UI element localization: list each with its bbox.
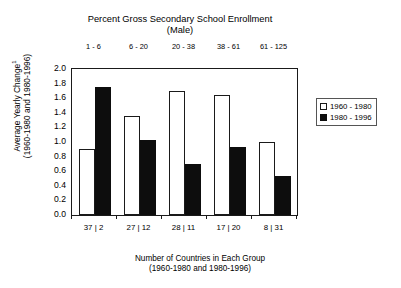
bar-dark [140,140,156,215]
y-axis-tick-label: 0.8 [54,151,66,161]
y-axis-tick-label: 1.8 [54,78,66,88]
bar-group [207,69,252,215]
x-axis-tick-mark [161,215,162,219]
bar-light [124,116,140,215]
chart-title: Percent Gross Secondary School Enrollmen… [0,14,360,25]
legend-item-label: 1960 - 1980 [330,101,372,112]
bottom-category-label: 17 | 20 [206,222,251,234]
bar-group [252,69,297,215]
top-category-label: 6 - 20 [116,41,161,53]
legend-item: 1960 - 1980 [320,101,372,112]
legend-item-label: 1980 - 1996 [330,112,372,123]
bar-light [214,95,230,215]
y-axis-tick-label: 0.0 [54,209,66,219]
x-axis-subtitle: (1960-1980 and 1980-1996) [30,264,370,274]
x-axis-tick-mark [116,215,117,219]
top-category-axis: 1 - 66 - 2020 - 3838 - 6161 - 125 [71,41,296,53]
x-axis-title: Number of Countries in Each Group [30,254,370,264]
y-axis-title-subtext: (1960-1980 and 1980-1996) [22,43,33,169]
y-axis-title-superscript: 1 [11,60,17,63]
y-axis: 2.01.81.61.41.21.00.80.60.40.20.0 [36,62,70,220]
y-axis-tick-label: 1.4 [54,107,66,117]
bottom-category-label: 37 | 2 [71,222,116,234]
top-category-label: 61 - 125 [251,41,296,53]
top-category-label: 1 - 6 [71,41,116,53]
y-axis-title-text: Average Yearly Change [12,64,22,152]
x-axis-tick-marks [71,215,298,220]
y-axis-tick-label: 0.2 [54,194,66,204]
y-axis-tick-label: 1.0 [54,136,66,146]
bottom-category-label: 27 | 12 [116,222,161,234]
bar-group [117,69,162,215]
bar-dark [185,164,201,215]
bar-light [259,142,275,215]
bar-group [162,69,207,215]
chart-subtitle: (Male) [0,25,360,36]
legend-item: 1980 - 1996 [320,112,372,123]
bar-light [79,149,95,215]
y-axis-title: Average Yearly Change1 (1960-1980 and 19… [9,43,31,169]
x-axis-tick-mark [71,215,72,219]
bar-light [169,91,185,215]
x-axis-tick-mark [206,215,207,219]
y-axis-tick-label: 0.6 [54,165,66,175]
y-axis-tick-label: 2.0 [54,63,66,73]
bottom-category-axis: 37 | 227 | 1228 | 1117 | 208 | 31 [71,222,296,234]
light-square-icon [320,103,327,110]
bar-group [72,69,117,215]
bar-dark [275,176,291,215]
x-axis-tick-mark [296,215,297,219]
bottom-category-label: 28 | 11 [161,222,206,234]
y-axis-tick-label: 0.4 [54,180,66,190]
bar-series-container [72,69,297,215]
bar-dark [230,147,246,215]
chart-legend: 1960 - 19801980 - 1996 [316,98,377,126]
top-category-label: 38 - 61 [206,41,251,53]
y-axis-tick-label: 1.6 [54,92,66,102]
y-axis-tick-label: 1.2 [54,121,66,131]
dark-square-icon [320,114,327,121]
chart-figure: Percent Gross Secondary School Enrollmen… [0,0,401,288]
bottom-category-label: 8 | 31 [251,222,296,234]
top-category-label: 20 - 38 [161,41,206,53]
x-axis-tick-mark [251,215,252,219]
bar-dark [95,87,111,215]
